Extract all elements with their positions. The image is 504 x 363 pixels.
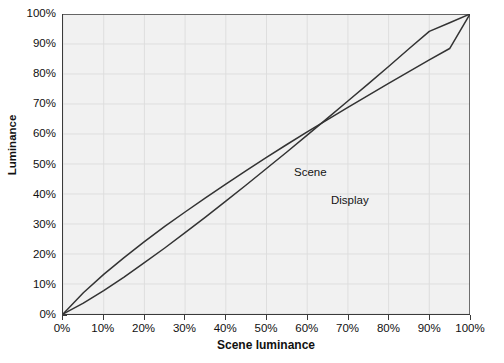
x-tick-mark	[103, 315, 104, 320]
y-axis-ticks: 100%90%80%70%60%50%40%30%20%10%0%	[8, 14, 56, 315]
x-tick-mark	[470, 315, 471, 320]
x-tick-mark	[307, 315, 308, 320]
y-tick-label: 90%	[12, 38, 56, 50]
x-tick-mark	[62, 315, 63, 320]
gridlines	[63, 14, 470, 314]
y-tick-label: 70%	[12, 98, 56, 110]
y-tick-label: 20%	[12, 249, 56, 261]
y-tick-label: 40%	[12, 189, 56, 201]
x-tick-mark	[348, 315, 349, 320]
y-tick-label: 60%	[12, 128, 56, 140]
x-tick-mark	[429, 315, 430, 320]
y-tick-label: 0%	[12, 309, 56, 321]
plot-area: Scene Display	[62, 14, 470, 315]
series-label-scene: Scene	[294, 166, 327, 178]
series-label-display: Display	[331, 194, 369, 206]
y-tick-label: 100%	[12, 8, 56, 20]
plot-canvas	[63, 14, 470, 314]
x-tick-mark	[184, 315, 185, 320]
x-tick-mark	[266, 315, 267, 320]
luminance-transfer-chart: Luminance 100%90%80%70%60%50%40%30%20%10…	[0, 0, 504, 363]
x-tick-label: 100%	[440, 322, 500, 334]
y-tick-label: 30%	[12, 219, 56, 231]
x-tick-mark	[388, 315, 389, 320]
y-tick-label: 10%	[12, 279, 56, 291]
y-tick-label: 80%	[12, 68, 56, 80]
y-tick-label: 50%	[12, 159, 56, 171]
x-tick-mark	[225, 315, 226, 320]
x-axis-title: Scene luminance	[62, 338, 470, 352]
x-tick-mark	[144, 315, 145, 320]
x-axis-ticks: 0%10%20%30%40%50%60%70%80%90%100%	[62, 315, 470, 339]
